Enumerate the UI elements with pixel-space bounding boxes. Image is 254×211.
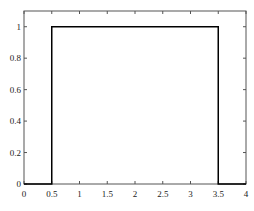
x-tick-label: 0 — [22, 189, 27, 199]
y-tick-label: 0.4 — [10, 116, 22, 126]
x-tick-label: 4 — [244, 189, 249, 199]
y-axis-ticks: 00.20.40.60.81 — [10, 22, 246, 189]
y-tick-label: 0 — [17, 179, 22, 189]
y-tick-label: 1 — [17, 22, 22, 32]
x-tick-label: 3 — [188, 189, 193, 199]
x-tick-label: 1.5 — [102, 189, 114, 199]
x-tick-label: 3.5 — [213, 189, 225, 199]
x-tick-label: 0.5 — [46, 189, 58, 199]
y-tick-label: 0.8 — [10, 53, 22, 63]
pulse-line — [24, 27, 246, 184]
y-tick-label: 0.6 — [10, 85, 22, 95]
pulse-chart: 00.511.522.533.54 00.20.40.60.81 — [0, 0, 254, 211]
y-tick-label: 0.2 — [10, 148, 21, 158]
x-tick-label: 1 — [77, 189, 82, 199]
x-axis-ticks: 00.511.522.533.54 — [22, 11, 249, 199]
axes-box — [24, 11, 246, 184]
x-tick-label: 2.5 — [157, 189, 169, 199]
x-tick-label: 2 — [133, 189, 138, 199]
